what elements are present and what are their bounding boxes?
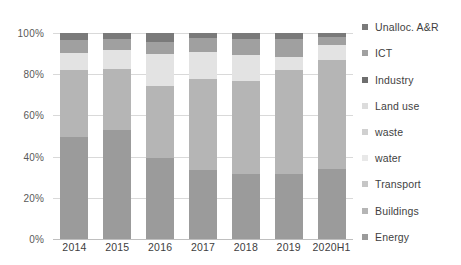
x-tick-label-2017: 2017 (191, 241, 215, 253)
stacked-bar-chart: 0%20%40%60%80%100% 201420152016201720182… (0, 0, 461, 265)
legend-item-buildings[interactable]: Buildings (362, 205, 419, 217)
legend-swatch-water-icon (362, 155, 368, 161)
bar-segment-energy[interactable] (232, 174, 260, 239)
y-tick-label-20: 20% (23, 192, 44, 203)
legend-swatch-land-use-icon (362, 103, 368, 109)
legend-swatch-waste-icon (362, 129, 368, 135)
x-tick-label-2020H1: 2020H1 (313, 241, 351, 253)
legend-item-unalloc-a-r[interactable]: Unalloc. A&R (362, 21, 439, 33)
legend-item-ict[interactable]: ICT (362, 47, 392, 59)
legend-swatch-buildings-icon (362, 208, 368, 214)
legend-swatch-unalloc-icon (362, 24, 368, 30)
bar-segment-water[interactable] (189, 52, 217, 80)
bar-segment-ict[interactable] (232, 39, 260, 54)
bar-segment-buildings[interactable] (103, 69, 131, 130)
legend-label: waste (375, 126, 403, 138)
bar-segment-water[interactable] (318, 45, 346, 59)
legend-swatch-ict-icon (362, 50, 368, 56)
y-axis: 0%20%40%60%80%100% (0, 33, 50, 239)
y-tick-label-80: 80% (23, 69, 44, 80)
bar-segment-buildings[interactable] (275, 70, 303, 174)
bar-segment-water[interactable] (146, 54, 174, 86)
legend-item-transport[interactable]: Transport (362, 178, 421, 190)
x-axis: 2014201520162017201820192020H1 (53, 241, 353, 259)
legend-label: Land use (375, 100, 419, 112)
bar-segment-energy[interactable] (275, 174, 303, 239)
bar-2018[interactable] (232, 33, 260, 239)
bar-segment-water[interactable] (60, 53, 88, 71)
bar-segment-buildings[interactable] (232, 81, 260, 174)
legend-label: water (375, 152, 401, 164)
bar-segment-water[interactable] (232, 55, 260, 82)
legend-label: Transport (375, 178, 421, 190)
bar-segment-buildings[interactable] (146, 86, 174, 158)
y-tick-label-100: 100% (18, 28, 44, 39)
bar-segment-ict[interactable] (103, 39, 131, 49)
bar-segment-energy[interactable] (318, 169, 346, 239)
x-tick-label-2015: 2015 (105, 241, 129, 253)
bar-segment-ict[interactable] (275, 39, 303, 57)
bar-segment-ict[interactable] (318, 37, 346, 45)
bar-segment-unalloc-a-r[interactable] (60, 33, 88, 40)
legend-label: Energy (375, 231, 409, 243)
bar-segment-energy[interactable] (60, 137, 88, 239)
bar-segment-water[interactable] (275, 57, 303, 70)
bar-segment-buildings[interactable] (189, 79, 217, 170)
bar-segment-unalloc-a-r[interactable] (146, 33, 174, 42)
legend-item-land-use[interactable]: Land use (362, 100, 419, 112)
bar-segment-energy[interactable] (146, 158, 174, 239)
bar-segment-ict[interactable] (146, 42, 174, 53)
y-tick-label-0: 0% (29, 234, 44, 245)
legend-item-energy[interactable]: Energy (362, 231, 409, 243)
x-tick-label-2019: 2019 (277, 241, 301, 253)
x-tick-label-2018: 2018 (234, 241, 258, 253)
legend-item-waste[interactable]: waste (362, 126, 403, 138)
bar-segment-energy[interactable] (103, 130, 131, 239)
legend-swatch-energy-icon (362, 234, 368, 240)
bar-2015[interactable] (103, 33, 131, 239)
bar-segment-buildings[interactable] (60, 70, 88, 137)
legend-label: Buildings (375, 205, 419, 217)
bar-segment-energy[interactable] (189, 170, 217, 239)
legend-swatch-transport-icon (362, 181, 368, 187)
x-axis-line (53, 239, 353, 240)
bar-2020H1[interactable] (318, 33, 346, 239)
bar-segment-ict[interactable] (60, 40, 88, 52)
bar-segment-buildings[interactable] (318, 60, 346, 169)
plot-area (53, 33, 353, 239)
legend-label: Unalloc. A&R (375, 21, 439, 33)
x-tick-label-2014: 2014 (62, 241, 86, 253)
bar-segment-ict[interactable] (189, 38, 217, 51)
bar-2019[interactable] (275, 33, 303, 239)
y-tick-label-60: 60% (23, 110, 44, 121)
legend-label: Industry (375, 74, 414, 86)
bar-2014[interactable] (60, 33, 88, 239)
bars-layer (53, 33, 353, 239)
bar-segment-water[interactable] (103, 50, 131, 70)
legend-label: ICT (375, 47, 392, 59)
bar-2017[interactable] (189, 33, 217, 239)
legend: Unalloc. A&RICTIndustryLand usewastewate… (362, 14, 461, 250)
x-tick-label-2016: 2016 (148, 241, 172, 253)
legend-item-industry[interactable]: Industry (362, 74, 414, 86)
bar-2016[interactable] (146, 33, 174, 239)
y-tick-label-40: 40% (23, 151, 44, 162)
legend-item-water[interactable]: water (362, 152, 401, 164)
legend-swatch-industry-icon (362, 77, 368, 83)
